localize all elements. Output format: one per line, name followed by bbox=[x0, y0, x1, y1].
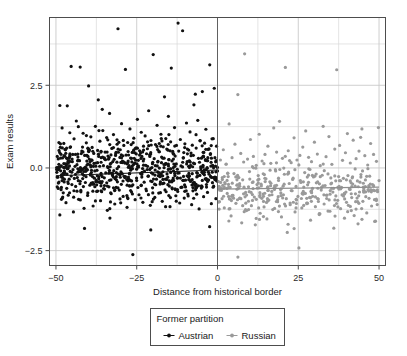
data-point bbox=[74, 185, 77, 188]
data-point bbox=[342, 177, 345, 180]
data-point bbox=[357, 149, 360, 152]
data-point bbox=[183, 142, 186, 145]
data-point bbox=[268, 169, 271, 172]
data-point bbox=[359, 136, 362, 139]
data-point bbox=[164, 205, 167, 208]
data-point bbox=[284, 66, 287, 69]
data-point bbox=[62, 191, 65, 194]
data-point bbox=[263, 153, 266, 156]
data-point bbox=[377, 126, 380, 129]
data-point bbox=[288, 182, 291, 185]
data-point bbox=[179, 176, 182, 179]
data-point bbox=[139, 196, 142, 199]
data-point bbox=[303, 171, 306, 174]
data-point bbox=[206, 191, 209, 194]
data-point bbox=[133, 151, 136, 154]
data-point bbox=[351, 175, 354, 178]
data-point bbox=[116, 148, 119, 151]
data-point bbox=[97, 129, 100, 132]
data-point bbox=[127, 150, 130, 153]
data-point bbox=[61, 146, 64, 149]
data-point bbox=[142, 145, 145, 148]
data-point bbox=[350, 209, 353, 212]
data-point bbox=[91, 146, 94, 149]
data-point bbox=[283, 173, 286, 176]
data-point bbox=[172, 153, 175, 156]
data-point bbox=[122, 139, 125, 142]
data-point bbox=[135, 176, 138, 179]
data-point bbox=[99, 180, 102, 183]
data-point bbox=[82, 132, 85, 135]
data-point bbox=[129, 179, 132, 182]
data-point bbox=[226, 172, 229, 175]
data-point bbox=[132, 137, 135, 140]
data-point bbox=[158, 142, 161, 145]
data-point bbox=[70, 158, 73, 161]
data-point bbox=[241, 178, 244, 181]
data-point bbox=[56, 185, 59, 188]
data-point bbox=[97, 153, 100, 156]
data-point bbox=[72, 196, 75, 199]
data-point bbox=[247, 185, 250, 188]
data-point bbox=[173, 174, 176, 177]
data-point bbox=[356, 222, 359, 225]
data-point bbox=[231, 182, 234, 185]
data-point bbox=[363, 154, 366, 157]
data-point bbox=[262, 162, 265, 165]
data-point bbox=[238, 185, 241, 188]
data-point bbox=[213, 87, 216, 90]
data-point bbox=[333, 204, 336, 207]
data-point bbox=[236, 93, 239, 96]
data-point bbox=[133, 157, 136, 160]
data-point bbox=[293, 227, 296, 230]
data-point bbox=[341, 159, 344, 162]
data-point bbox=[95, 183, 98, 186]
data-point bbox=[156, 164, 159, 167]
data-point bbox=[62, 142, 65, 145]
data-point bbox=[292, 201, 295, 204]
data-point bbox=[106, 138, 109, 141]
data-point bbox=[277, 177, 280, 180]
data-point bbox=[97, 98, 100, 101]
data-point bbox=[239, 197, 242, 200]
data-point bbox=[61, 176, 64, 179]
data-point bbox=[294, 206, 297, 209]
data-point bbox=[262, 215, 265, 218]
data-point bbox=[281, 196, 284, 199]
data-point bbox=[91, 150, 94, 153]
data-point bbox=[272, 126, 275, 129]
data-point bbox=[75, 163, 78, 166]
data-point bbox=[330, 181, 333, 184]
data-point bbox=[183, 183, 186, 186]
scatter-plot-svg: −50−2502550−2.50.02.5Distance from histo… bbox=[0, 0, 407, 356]
data-point bbox=[139, 157, 142, 160]
data-point bbox=[333, 174, 336, 177]
data-point bbox=[310, 160, 313, 163]
data-point bbox=[57, 180, 60, 183]
data-point bbox=[288, 159, 291, 162]
data-point bbox=[124, 68, 127, 71]
data-point bbox=[339, 207, 342, 210]
legend-title: Former partition bbox=[157, 313, 224, 324]
data-point bbox=[311, 195, 314, 198]
data-point bbox=[318, 212, 321, 215]
data-point bbox=[210, 144, 213, 147]
data-point bbox=[141, 150, 144, 153]
data-point bbox=[171, 179, 174, 182]
data-point bbox=[191, 144, 194, 147]
data-point bbox=[148, 155, 151, 158]
data-point bbox=[301, 146, 304, 149]
data-point bbox=[168, 205, 171, 208]
data-point bbox=[109, 200, 112, 203]
data-point bbox=[264, 180, 267, 183]
data-point bbox=[108, 169, 111, 172]
data-point bbox=[227, 175, 230, 178]
data-point bbox=[295, 202, 298, 205]
data-point bbox=[149, 139, 152, 142]
data-point bbox=[274, 168, 277, 171]
data-point bbox=[188, 159, 191, 162]
data-point bbox=[131, 192, 134, 195]
data-point bbox=[176, 22, 179, 25]
data-point bbox=[189, 180, 192, 183]
data-point bbox=[168, 185, 171, 188]
